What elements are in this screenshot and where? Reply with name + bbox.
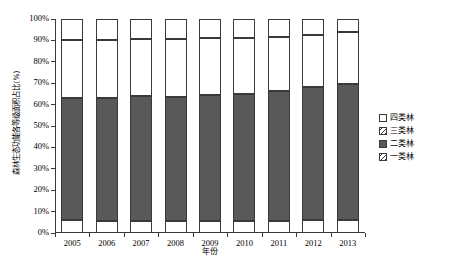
y-tick-label: 50% [33,120,49,131]
bar-segment-二类林 [165,97,187,221]
bar-segment-一类林 [302,220,324,233]
bar-2005 [61,19,83,233]
bar-segment-四类林 [268,19,290,37]
bar-segment-二类林 [268,91,290,222]
bar-2009 [199,19,221,233]
x-tick-mark [262,233,263,237]
bar-segment-四类林 [199,19,221,38]
legend-swatch-icon [379,127,387,135]
bar-segment-一类林 [199,221,221,233]
y-tick-label: 80% [33,56,49,67]
bar-2010 [233,19,255,233]
bar-segment-二类林 [61,98,83,220]
bar-segment-四类林 [61,19,83,40]
x-tick-mark [124,233,125,237]
bar-segment-二类林 [337,84,359,220]
legend-swatch-icon [379,114,387,122]
x-tick-mark [193,233,194,237]
bar-segment-一类林 [268,221,290,233]
legend-item-一类林: 一类林 [379,150,414,163]
bar-2006 [96,19,118,233]
y-tick-mark [51,104,55,105]
bar-segment-二类林 [130,96,152,221]
bar-segment-三类林 [337,32,359,84]
bar-segment-三类林 [165,39,187,97]
y-tick-mark [51,211,55,212]
bar-segment-四类林 [233,19,255,38]
bar-2007 [130,19,152,233]
bar-segment-一类林 [337,220,359,233]
legend-swatch-icon [379,140,387,148]
legend-item-二类林: 二类林 [379,137,414,150]
bar-segment-三类林 [268,37,290,91]
y-tick-mark [51,190,55,191]
y-tick-mark [51,61,55,62]
bar-segment-二类林 [96,98,118,221]
x-tick-label: 2013 [328,238,368,249]
y-tick-label: 60% [33,99,49,110]
legend-item-四类林: 四类林 [379,111,414,124]
y-tick-label: 100% [29,13,49,24]
chart-legend: 四类林三类林二类林一类林 [379,111,414,163]
bar-segment-四类林 [337,19,359,32]
x-tick-mark [158,233,159,237]
bar-segment-三类林 [61,40,83,98]
y-tick-mark [51,126,55,127]
bar-2013 [337,19,359,233]
y-tick-label: 70% [33,77,49,88]
stacked-bar-chart: 森林生态功能各等级面积占比(%) 0%10%20%30%40%50%60%70%… [0,0,458,270]
bar-segment-二类林 [199,95,221,221]
bar-segment-一类林 [61,220,83,233]
x-tick-mark [331,233,332,237]
bar-segment-三类林 [96,40,118,98]
x-tick-mark [365,233,366,237]
bar-2012 [302,19,324,233]
x-tick-mark [296,233,297,237]
x-axis-title: 年份 [155,247,265,257]
bar-2011 [268,19,290,233]
bar-segment-三类林 [233,38,255,94]
y-tick-label: 0% [38,227,49,238]
y-tick-mark [51,83,55,84]
y-tick-label: 10% [33,206,49,217]
legend-item-三类林: 三类林 [379,124,414,137]
bar-segment-四类林 [165,19,187,39]
y-tick-mark [51,19,55,20]
legend-label: 三类林 [390,125,414,136]
legend-label: 二类林 [390,138,414,149]
y-tick-mark [51,40,55,41]
bar-segment-四类林 [130,19,152,39]
bar-segment-三类林 [302,35,324,87]
x-tick-mark [227,233,228,237]
y-tick-label: 20% [33,184,49,195]
bar-segment-二类林 [233,94,255,221]
bar-segment-二类林 [302,87,324,220]
legend-label: 四类林 [390,112,414,123]
bar-segment-四类林 [302,19,324,35]
x-tick-mark [89,233,90,237]
y-tick-mark [51,168,55,169]
bar-segment-四类林 [96,19,118,40]
bar-segment-三类林 [130,39,152,96]
bar-segment-一类林 [165,221,187,233]
bar-segment-一类林 [233,221,255,233]
y-tick-label: 40% [33,141,49,152]
bar-segment-三类林 [199,38,221,95]
y-axis-title: 森林生态功能各等级面积占比(%) [12,23,21,223]
y-tick-mark [51,147,55,148]
y-tick-label: 30% [33,163,49,174]
bar-2008 [165,19,187,233]
bar-segment-一类林 [96,221,118,233]
x-tick-mark [55,233,56,237]
legend-label: 一类林 [390,151,414,162]
bar-segment-一类林 [130,221,152,233]
y-tick-label: 90% [33,34,49,45]
legend-swatch-icon [379,153,387,161]
